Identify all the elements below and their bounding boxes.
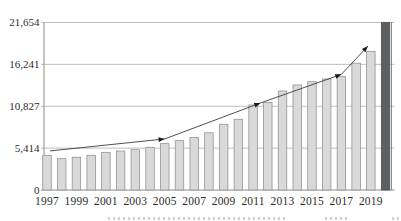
x-tick-label: 2017 <box>329 195 353 207</box>
bar-2008 <box>205 133 214 190</box>
y-tick-label: 21,654 <box>9 16 40 28</box>
y-tick-label: 5,414 <box>15 142 40 154</box>
bar-2016 <box>322 79 331 190</box>
bar-2010 <box>234 119 243 190</box>
bar-2020 <box>381 23 390 191</box>
bar-1998 <box>57 159 66 190</box>
bar-2014 <box>293 85 302 190</box>
bar-2013 <box>278 91 287 190</box>
x-tick-label: 2013 <box>271 195 295 207</box>
bar-2015 <box>308 82 317 190</box>
x-tick-label: 2005 <box>153 195 177 207</box>
bar-2004 <box>146 147 155 190</box>
bar-2012 <box>264 103 273 190</box>
x-axis-labels: 1997199920012003200520072009201120132015… <box>35 195 383 207</box>
bar-2000 <box>87 155 96 190</box>
x-tick-label: 2011 <box>241 195 264 207</box>
bar-2007 <box>190 138 199 190</box>
bar-2001 <box>102 152 111 190</box>
x-tick-label: 1999 <box>65 195 89 207</box>
x-tick-label: 2015 <box>300 195 324 207</box>
bar-2017 <box>337 77 346 190</box>
bar-2019 <box>367 52 376 190</box>
x-tick-label: 2003 <box>123 195 147 207</box>
bar-chart: 05,41410,82716,24121,6541997199920012003… <box>0 0 401 221</box>
bar-1997 <box>43 155 52 190</box>
bar-2002 <box>116 151 125 190</box>
bar-2006 <box>175 141 184 190</box>
bar-2003 <box>131 150 140 190</box>
x-tick-label: 2009 <box>212 195 236 207</box>
bar-1999 <box>72 157 81 190</box>
x-tick-label: 2007 <box>182 195 206 207</box>
arrowhead-icon <box>158 137 165 142</box>
bar-2011 <box>249 105 258 190</box>
y-tick-label: 0 <box>34 184 40 196</box>
y-tick-label: 16,241 <box>9 58 39 70</box>
x-tick-label: 2019 <box>359 195 383 207</box>
bar-2009 <box>219 124 228 190</box>
y-tick-label: 10,827 <box>9 100 40 112</box>
y-axis-labels: 05,41410,82716,24121,654 <box>9 16 40 196</box>
chart-container: 05,41410,82716,24121,6541997199920012003… <box>0 0 401 221</box>
x-tick-label: 1997 <box>35 195 59 207</box>
bar-2018 <box>352 63 361 190</box>
x-tick-label: 2001 <box>94 195 118 207</box>
bar-2005 <box>161 144 170 190</box>
